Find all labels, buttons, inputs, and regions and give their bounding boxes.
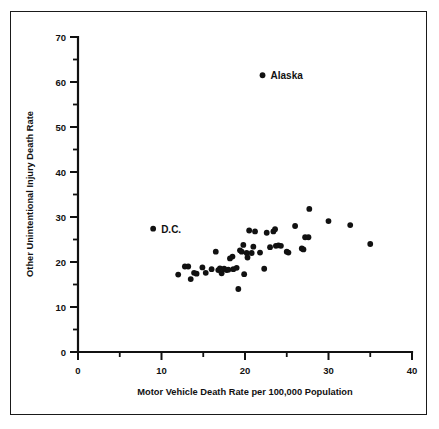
data-point	[267, 244, 273, 250]
chart-figure: 010203040506070 010203040 AlaskaD.C. Mot…	[0, 0, 439, 429]
data-point	[272, 226, 278, 232]
data-point	[246, 228, 252, 234]
data-point	[194, 271, 200, 277]
data-point	[278, 243, 284, 249]
data-point	[200, 265, 206, 271]
data-point	[203, 270, 209, 276]
x-axis-major-ticks	[78, 352, 412, 360]
annotation-label: D.C.	[161, 224, 181, 235]
data-point	[249, 250, 255, 256]
data-point	[175, 272, 181, 278]
y-axis-tick-labels: 010203040506070	[55, 32, 66, 358]
data-point	[188, 276, 194, 282]
x-tick-label: 10	[156, 365, 167, 376]
annotation-label-group: AlaskaD.C.	[161, 70, 303, 234]
y-tick-label: 30	[55, 212, 66, 223]
y-tick-label: 70	[55, 32, 66, 43]
data-point	[326, 218, 332, 224]
data-point	[306, 234, 312, 240]
data-point-group	[150, 72, 373, 292]
x-axis-title: Motor Vehicle Death Rate per 100,000 Pop…	[137, 387, 353, 397]
data-point	[225, 267, 231, 273]
data-point	[150, 226, 156, 232]
data-point	[367, 241, 373, 247]
data-point	[252, 229, 258, 235]
data-point	[347, 222, 353, 228]
data-point	[286, 250, 292, 256]
y-tick-label: 50	[55, 122, 66, 133]
data-point	[250, 244, 256, 250]
scatter-plot: 010203040506070 010203040 AlaskaD.C. Mot…	[11, 12, 425, 413]
annotation-label: Alaska	[271, 70, 304, 81]
y-tick-label: 60	[55, 77, 66, 88]
data-point	[209, 266, 215, 272]
y-axis-title: Other Unintentional Injury Death Rate	[25, 111, 35, 277]
data-point	[301, 247, 307, 253]
y-tick-label: 0	[61, 347, 66, 358]
data-point	[213, 249, 219, 255]
data-point	[241, 271, 247, 277]
data-point	[261, 266, 267, 272]
y-tick-label: 40	[55, 167, 66, 178]
data-point	[245, 255, 251, 261]
data-point	[234, 265, 240, 271]
x-tick-label: 40	[407, 365, 418, 376]
data-point	[235, 286, 241, 292]
data-point	[264, 230, 270, 236]
x-axis-tick-labels: 010203040	[75, 365, 417, 376]
data-point	[257, 250, 263, 256]
data-point	[230, 254, 236, 260]
chart-frame-border: 010203040506070 010203040 AlaskaD.C. Mot…	[10, 11, 427, 415]
data-point	[240, 242, 246, 248]
data-point	[239, 249, 245, 255]
data-point	[260, 72, 266, 78]
x-tick-label: 0	[75, 365, 80, 376]
y-tick-label: 20	[55, 257, 66, 268]
data-point	[185, 264, 191, 270]
y-tick-label: 10	[55, 302, 66, 313]
x-tick-label: 30	[323, 365, 334, 376]
x-tick-label: 20	[240, 365, 251, 376]
data-point	[306, 206, 312, 212]
data-point	[292, 223, 298, 229]
